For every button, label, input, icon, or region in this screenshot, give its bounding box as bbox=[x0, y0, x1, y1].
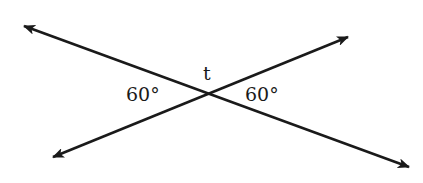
angle-label-left: 60° bbox=[126, 83, 160, 105]
line-2 bbox=[53, 37, 348, 157]
intersecting-lines-diagram: t 60° 60° bbox=[0, 0, 423, 183]
angle-label-right: 60° bbox=[245, 83, 279, 105]
intersection-label: t bbox=[203, 62, 211, 84]
